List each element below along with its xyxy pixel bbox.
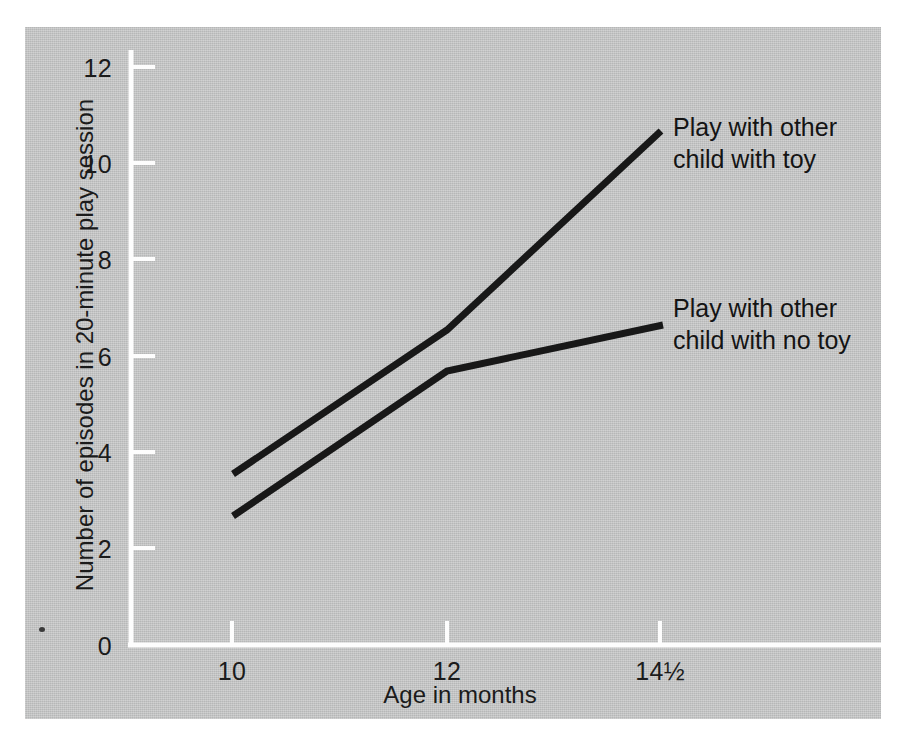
x-tick-label-14-half: 14½: [615, 657, 705, 686]
y-axis-title: Number of episodes in 20-minute play ses…: [71, 85, 99, 605]
y-tick-label-0: 0: [52, 632, 112, 661]
x-tick-label-10: 10: [187, 657, 277, 686]
scan-speck: [39, 627, 45, 632]
chart-figure: 12 10 8 6 4 2 0 10 12 14½ Age in months …: [0, 0, 907, 739]
y-tick-label-12: 12: [52, 54, 112, 83]
series-annotation-with-toy: Play with other child with toy: [673, 111, 837, 175]
x-axis-title: Age in months: [310, 681, 610, 709]
series-line-no-toy: [233, 325, 663, 516]
series-annotation-no-toy: Play with other child with no toy: [673, 292, 851, 356]
series-line-with-toy: [233, 131, 661, 474]
